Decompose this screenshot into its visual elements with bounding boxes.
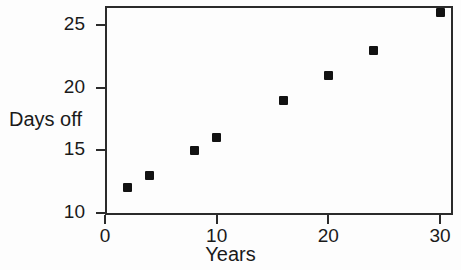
data-point: [369, 46, 378, 55]
scatter-plot-figure: 10152025 0102030 Days off Years: [0, 0, 461, 270]
data-points-layer: [0, 0, 461, 270]
data-point: [123, 183, 132, 192]
data-point: [145, 171, 154, 180]
data-point: [436, 8, 445, 17]
data-point: [324, 71, 333, 80]
data-point: [190, 146, 199, 155]
data-point: [212, 133, 221, 142]
data-point: [279, 96, 288, 105]
